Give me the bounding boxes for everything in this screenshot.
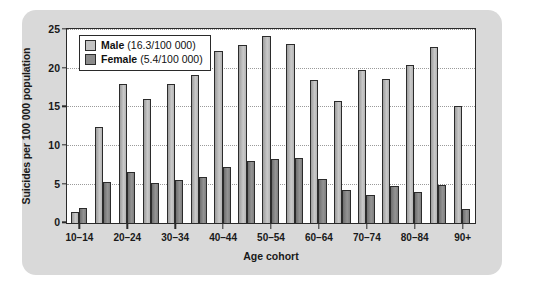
bar-female	[318, 179, 326, 223]
x-tick-mark	[414, 224, 415, 229]
bar-female	[127, 172, 135, 223]
bar-female	[366, 195, 374, 223]
bar-male	[71, 212, 79, 223]
bar-group	[283, 44, 307, 223]
bar-group	[187, 75, 211, 223]
x-tick-label: 40–44	[209, 232, 237, 243]
bar-female	[175, 180, 183, 223]
bar-group	[139, 99, 163, 223]
x-tick-mark	[79, 224, 80, 229]
bar-male	[238, 45, 246, 223]
bar-group	[450, 106, 474, 223]
x-tick-label: 70–74	[353, 232, 381, 243]
bar-female	[223, 167, 231, 223]
x-tick-mark	[366, 224, 367, 229]
x-tick-mark	[270, 224, 271, 229]
bar-group	[91, 127, 115, 223]
bar-group	[378, 79, 402, 224]
x-tick-label: 20–24	[113, 232, 141, 243]
bar-female	[103, 182, 111, 223]
bar-female	[295, 158, 303, 223]
bar-male	[262, 36, 270, 223]
bar-group	[163, 84, 187, 223]
x-tick-label: 90+	[454, 232, 471, 243]
bar-female	[342, 190, 350, 223]
x-tick-label: 60–64	[305, 232, 333, 243]
legend-swatch-female-icon	[85, 54, 96, 65]
bar-male	[334, 101, 342, 223]
bar-group	[259, 36, 283, 223]
x-tick-mark	[127, 224, 128, 229]
bar-female	[247, 161, 255, 223]
bar-male	[286, 44, 294, 223]
bar-group	[235, 45, 259, 223]
bar-male	[310, 80, 318, 223]
bar-male	[143, 99, 151, 223]
bar-group	[307, 80, 331, 223]
bar-female	[414, 192, 422, 223]
x-tick-mark	[174, 224, 175, 229]
x-tick-mark	[222, 224, 223, 229]
bar-female	[462, 209, 470, 223]
bar-male	[167, 84, 175, 223]
x-tick-label: 10–14	[65, 232, 93, 243]
bar-male	[119, 84, 127, 223]
bar-male	[382, 79, 390, 224]
bar-group	[330, 101, 354, 223]
bar-female	[79, 208, 87, 223]
x-axis-ticks: 10–1420–2430–3440–4450–5460–6470–7480–84…	[66, 224, 476, 270]
x-tick-mark	[318, 224, 319, 229]
y-tick-label: 10	[48, 139, 67, 151]
legend-value-female: (5.4/100 000)	[140, 53, 202, 67]
legend-item-male: Male (16.3/100 000)	[85, 39, 203, 53]
legend-value-male: (16.3/100 000)	[127, 39, 195, 53]
y-tick-label: 25	[48, 23, 67, 35]
x-tick-mark	[462, 224, 463, 229]
y-tick-label: 15	[48, 100, 67, 112]
bar-male	[406, 65, 414, 223]
legend-label-female: Female	[101, 53, 137, 67]
legend-swatch-male-icon	[85, 40, 96, 51]
x-axis-label: Age cohort	[66, 250, 476, 262]
bar-male	[214, 51, 222, 223]
bar-group	[211, 51, 235, 223]
bar-male	[454, 106, 462, 223]
y-axis-label: Suicides per 100 000 population	[20, 28, 36, 224]
bar-group	[115, 84, 139, 223]
chart-legend: Male (16.3/100 000) Female (5.4/100 000)	[79, 35, 211, 71]
bar-male	[358, 70, 366, 223]
legend-item-female: Female (5.4/100 000)	[85, 53, 203, 67]
x-tick-label: 80–84	[401, 232, 429, 243]
bar-male	[430, 47, 438, 223]
bar-female	[271, 159, 279, 223]
bar-group	[354, 70, 378, 223]
bar-group	[426, 47, 450, 223]
x-tick-label: 30–34	[161, 232, 189, 243]
bar-male	[95, 127, 103, 223]
bar-group	[402, 65, 426, 223]
bar-female	[151, 183, 159, 223]
bar-group	[67, 208, 91, 223]
x-tick-label: 50–54	[257, 232, 285, 243]
y-tick-label: 20	[48, 62, 67, 74]
bar-female	[438, 185, 446, 223]
bar-male	[191, 75, 199, 223]
y-tick-label: 5	[54, 178, 67, 190]
plot-area: 0510152025 Male (16.3/100 000) Female (5…	[66, 28, 476, 224]
legend-label-male: Male	[101, 39, 124, 53]
bar-female	[390, 186, 398, 223]
bar-female	[199, 177, 207, 223]
